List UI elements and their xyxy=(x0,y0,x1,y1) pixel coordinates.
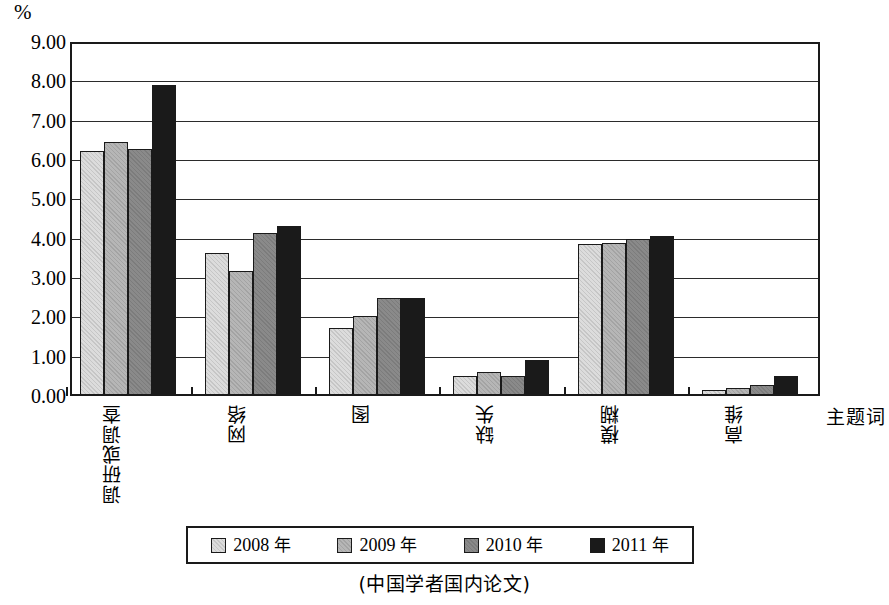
x-axis-category-label: 网络 xyxy=(227,404,248,444)
y-axis-tick-label: 6.00 xyxy=(4,150,66,170)
legend-label: 2008 年 xyxy=(233,536,291,554)
chart-legend: 2008 年2009 年2010 年2011 年 xyxy=(186,526,694,564)
y-axis-tick-label: 0.00 xyxy=(4,386,66,406)
bar xyxy=(453,376,477,395)
legend-swatch xyxy=(590,538,605,553)
x-axis-category-label: 图 xyxy=(351,404,372,424)
bar-chart: % 9.008.007.006.005.004.003.002.001.000.… xyxy=(0,0,889,605)
legend-swatch xyxy=(337,538,352,553)
legend-label: 2009 年 xyxy=(359,536,417,554)
x-axis-category-label: 高维 xyxy=(724,404,745,444)
bar xyxy=(80,151,104,395)
bar xyxy=(477,372,501,395)
bar xyxy=(650,236,674,395)
legend-label: 2011 年 xyxy=(612,536,669,554)
bar xyxy=(229,271,253,395)
x-axis-tick xyxy=(66,387,68,396)
legend-label: 2010 年 xyxy=(486,536,544,554)
bar xyxy=(377,298,401,396)
legend-item[interactable]: 2009 年 xyxy=(337,536,417,554)
x-axis-tick xyxy=(439,387,441,396)
bar xyxy=(602,243,626,395)
bar xyxy=(626,239,650,395)
bar xyxy=(353,316,377,395)
x-axis-category-label: 调研或调查 xyxy=(102,404,123,504)
y-axis-tick-label: 8.00 xyxy=(4,71,66,91)
y-axis-tick-label: 4.00 xyxy=(4,229,66,249)
bar xyxy=(501,376,525,395)
y-axis-tick-label: 9.00 xyxy=(4,32,66,52)
bar xyxy=(104,142,128,395)
y-axis-tick-label: 7.00 xyxy=(4,111,66,131)
x-axis-tick xyxy=(315,387,317,396)
chart-caption: (中国学者国内论文) xyxy=(0,573,889,595)
bar xyxy=(205,253,229,395)
bar xyxy=(774,376,798,395)
legend-swatch xyxy=(211,538,226,553)
bar xyxy=(277,226,301,395)
bar xyxy=(253,233,277,395)
bar xyxy=(329,328,353,395)
bar-group xyxy=(702,44,798,395)
x-axis-category-label: 模糊 xyxy=(600,404,621,444)
bar-group xyxy=(205,44,301,395)
bar xyxy=(702,390,726,395)
x-axis-title: 主题词 xyxy=(826,406,886,428)
bar xyxy=(578,244,602,395)
bar xyxy=(750,385,774,395)
legend-item[interactable]: 2010 年 xyxy=(464,536,544,554)
bar-group xyxy=(453,44,549,395)
y-axis-tick-labels: 9.008.007.006.005.004.003.002.001.000.00 xyxy=(0,42,66,396)
bar xyxy=(128,149,152,395)
x-axis-tick xyxy=(191,387,193,396)
y-axis-tick-label: 1.00 xyxy=(4,347,66,367)
legend-item[interactable]: 2008 年 xyxy=(211,536,291,554)
bar xyxy=(525,360,549,395)
x-axis-tick xyxy=(564,387,566,396)
bar xyxy=(401,298,425,396)
bars-layer xyxy=(72,44,818,395)
bar xyxy=(726,388,750,395)
y-axis-unit-label: % xyxy=(14,2,32,23)
bar-group xyxy=(80,44,176,395)
x-axis-tick xyxy=(688,387,690,396)
legend-item[interactable]: 2011 年 xyxy=(590,536,669,554)
y-axis-tick-label: 2.00 xyxy=(4,307,66,327)
bar xyxy=(152,85,176,395)
bar-group xyxy=(329,44,425,395)
x-axis-category-label: 缺失 xyxy=(475,404,496,444)
y-axis-tick-label: 5.00 xyxy=(4,189,66,209)
y-axis-tick-label: 3.00 xyxy=(4,268,66,288)
bar-group xyxy=(578,44,674,395)
legend-swatch xyxy=(464,538,479,553)
